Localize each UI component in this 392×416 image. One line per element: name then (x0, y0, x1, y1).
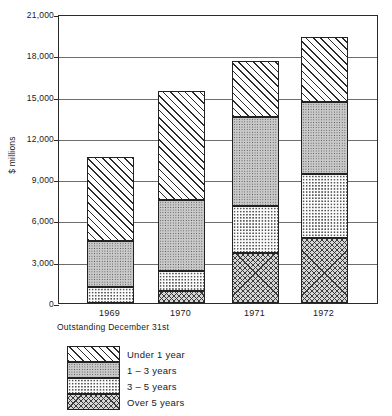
y-axis-tickmark (54, 57, 59, 58)
legend-label: Over 5 years (127, 397, 184, 408)
bar-1970 (158, 14, 205, 303)
x-axis-tick-label-1972: 1972 (294, 308, 354, 318)
bar-segment-1969-under-1-year (87, 157, 134, 241)
y-axis-tickmark (54, 264, 59, 265)
y-axis-tick-label: 3,000 (10, 258, 54, 268)
legend-item: Under 1 year (67, 346, 185, 362)
y-axis-tick-label: 15,000 (10, 93, 54, 103)
bar-segment-1972-over-5-years (301, 238, 348, 303)
legend-label: 3 – 5 years (127, 381, 177, 392)
bar-segment-1970-1---3-years (158, 200, 205, 271)
x-axis-caption: Outstanding December 31st (57, 322, 169, 332)
legend-label: Under 1 year (127, 349, 185, 360)
legend-item: Over 5 years (67, 394, 185, 410)
x-axis-tick-label-1971: 1971 (225, 308, 285, 318)
legend-swatch-3-5-years (67, 378, 120, 394)
bar-segment-1972-3---5-years (301, 174, 348, 238)
legend-swatch-1-3-years (67, 362, 120, 378)
y-axis-tick-label: 6,000 (10, 216, 54, 226)
legend-swatch-under-1-year (67, 346, 120, 362)
stacked-bar-chart: $ millions 03,0006,0009,00012,00015,0001… (0, 0, 392, 416)
x-axis-tick-label-1970: 1970 (151, 308, 211, 318)
y-axis-tickmark (54, 222, 59, 223)
bar-segment-1972-under-1-year (301, 37, 348, 102)
y-axis-tickmark (54, 140, 59, 141)
bar-segment-1971-over-5-years (232, 253, 279, 303)
bar-segment-1972-1---3-years (301, 102, 348, 174)
bar-segment-1971-under-1-year (232, 61, 279, 117)
y-axis-tick-label: 12,000 (10, 134, 54, 144)
y-axis-tickmark (54, 16, 59, 17)
bar-segment-1971-1---3-years (232, 117, 279, 206)
x-axis-tick-label-1969: 1969 (80, 308, 140, 318)
bar-segment-1970-3---5-years (158, 271, 205, 291)
y-axis-tick-label: 21,000 (10, 10, 54, 20)
y-axis-tick-labels: 03,0006,0009,00012,00015,00018,00021,000 (0, 0, 54, 416)
bar-segment-1969-1---3-years (87, 241, 134, 287)
plot-area (58, 15, 378, 304)
bar-1969 (87, 14, 134, 303)
chart-legend: Under 1 year1 – 3 years3 – 5 yearsOver 5… (67, 346, 185, 410)
y-axis-tickmark (54, 99, 59, 100)
bar-segment-1970-over-5-years (158, 291, 205, 303)
bar-segment-1971-3---5-years (232, 206, 279, 253)
legend-item: 1 – 3 years (67, 362, 185, 378)
legend-label: 1 – 3 years (127, 365, 177, 376)
y-axis-tickmark (54, 181, 59, 182)
y-axis-tickmark (54, 305, 59, 306)
legend-item: 3 – 5 years (67, 378, 185, 394)
bar-segment-1970-under-1-year (158, 91, 205, 200)
bar-1972 (301, 14, 348, 303)
y-axis-tick-label: 0 (10, 299, 54, 309)
bar-1971 (232, 14, 279, 303)
legend-swatch-over-5-years (67, 394, 120, 410)
bar-segment-1969-3---5-years (87, 287, 134, 303)
y-axis-tick-label: 18,000 (10, 51, 54, 61)
y-axis-tick-label: 9,000 (10, 175, 54, 185)
